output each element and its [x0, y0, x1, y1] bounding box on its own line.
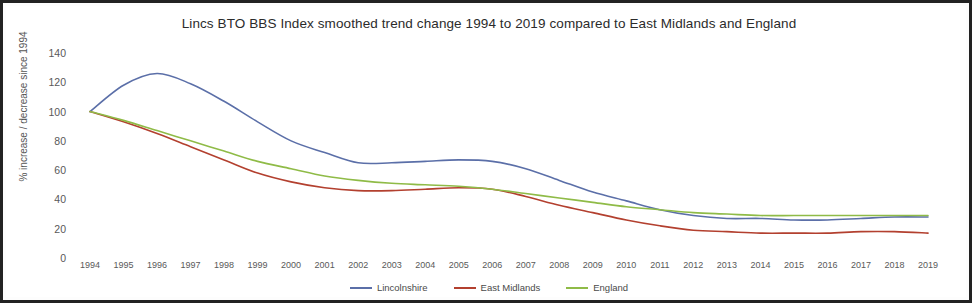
y-axis-tick-label: 20: [54, 224, 66, 235]
legend-label: Lincolnshire: [377, 282, 428, 293]
line-series-group: [72, 53, 946, 258]
legend-swatch-icon: [566, 287, 588, 289]
line-series: [90, 73, 928, 220]
y-axis-tick-label: 0: [60, 253, 66, 264]
y-axis-tick-label: 100: [48, 107, 66, 118]
y-axis-ticks: 020406080100120140: [30, 46, 66, 261]
x-axis-ticks: 1994199519961997199819992000200120022003…: [72, 260, 946, 278]
y-axis-title: % increase / decrease since 1994: [18, 27, 29, 187]
chart-canvas: Lincs BTO BBS Index smoothed trend chang…: [6, 6, 966, 297]
y-axis-tick-label: 140: [48, 48, 66, 59]
chart-frame: Lincs BTO BBS Index smoothed trend chang…: [0, 0, 972, 303]
legend-swatch-icon: [350, 287, 372, 289]
plot-area: [72, 53, 946, 258]
legend-item[interactable]: East Midlands: [454, 282, 541, 293]
chart-title: Lincs BTO BBS Index smoothed trend chang…: [6, 16, 972, 31]
legend-label: England: [593, 282, 628, 293]
y-axis-tick-label: 60: [54, 165, 66, 176]
legend-swatch-icon: [454, 287, 476, 289]
x-axis-tick-label: 2019: [908, 260, 948, 270]
legend-item[interactable]: England: [566, 282, 628, 293]
legend-label: East Midlands: [481, 282, 541, 293]
y-axis-tick-label: 80: [54, 136, 66, 147]
y-axis-tick-label: 40: [54, 194, 66, 205]
y-axis-tick-label: 120: [48, 77, 66, 88]
legend-item[interactable]: Lincolnshire: [350, 282, 428, 293]
chart-legend: LincolnshireEast MidlandsEngland: [6, 282, 972, 293]
